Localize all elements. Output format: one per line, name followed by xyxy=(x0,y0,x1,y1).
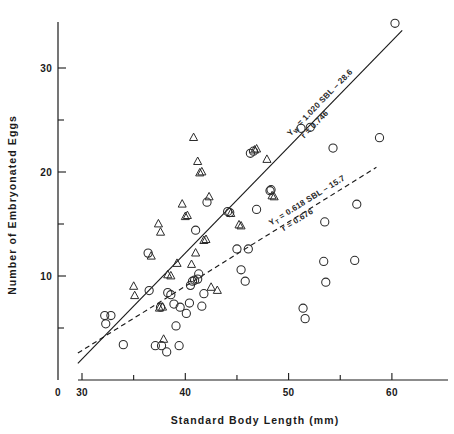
data-point-circle xyxy=(252,205,260,213)
y-tick-label: 20 xyxy=(40,167,52,178)
data-point-triangle xyxy=(183,211,191,218)
data-point-circle xyxy=(322,278,330,286)
data-point-triangle xyxy=(178,200,186,208)
data-point-triangle xyxy=(202,235,210,243)
data-point-triangle xyxy=(194,157,202,165)
data-point-circle xyxy=(102,320,110,328)
data-point-circle xyxy=(391,19,399,27)
y-tick-label: 30 xyxy=(40,63,52,74)
x-tick-label: 50 xyxy=(283,387,295,398)
data-point-triangle xyxy=(154,219,162,227)
data-point-circle xyxy=(144,249,152,257)
regression-equation-text: YW = 1.020 SBL – 28.6 xyxy=(285,67,355,138)
data-point-circle xyxy=(163,348,171,356)
data-point-circle xyxy=(198,302,206,310)
regression-label-t: YT = 0.618 SBL – 15.7r = 0.676 xyxy=(267,173,353,237)
regression-equation-text: YT = 0.618 SBL – 15.7 xyxy=(267,173,347,228)
scatter-plot-figure: 304050600102030Standard Body Length (mm)… xyxy=(0,0,454,434)
data-point-triangle xyxy=(131,291,139,298)
x-tick-label: 60 xyxy=(386,387,398,398)
data-point-circle xyxy=(107,311,115,319)
data-point-circle xyxy=(329,144,337,152)
data-point-circle xyxy=(119,341,127,349)
data-point-circle xyxy=(241,277,249,285)
data-point-triangle xyxy=(235,220,243,228)
y-axis-title: Number of Embryonated Eggs xyxy=(6,115,18,295)
data-point-triangle xyxy=(192,249,200,257)
data-point-triangle xyxy=(130,282,138,290)
data-point-circle xyxy=(237,266,245,274)
data-point-circle xyxy=(353,200,361,208)
data-point-circle xyxy=(375,134,383,142)
regression-label-w: YW = 1.020 SBL – 28.6r = 0.746 xyxy=(285,67,362,146)
x-axis-title: Standard Body Length (mm) xyxy=(171,414,340,426)
data-point-circle xyxy=(200,290,208,298)
data-point-circle xyxy=(301,315,309,323)
data-point-triangle xyxy=(190,133,198,140)
data-point-circle xyxy=(182,309,190,317)
x-tick-label: 30 xyxy=(76,387,88,398)
regression-line-solid xyxy=(78,30,402,363)
data-point-circle xyxy=(195,270,203,278)
data-point-triangle xyxy=(263,155,271,163)
data-point-circle xyxy=(185,299,193,307)
data-point-triangle xyxy=(198,167,206,175)
x-tick-label: 40 xyxy=(179,387,191,398)
data-point-circle xyxy=(321,218,329,226)
data-point-circle xyxy=(175,342,183,350)
x-origin-label: 0 xyxy=(55,387,61,398)
data-point-triangle xyxy=(188,260,196,267)
data-point-circle xyxy=(172,322,180,330)
data-point-circle xyxy=(192,226,200,234)
data-point-circle xyxy=(233,245,241,253)
data-point-circle xyxy=(299,304,307,312)
plot-canvas: 304050600102030Standard Body Length (mm)… xyxy=(0,0,454,434)
y-tick-label: 10 xyxy=(40,271,52,282)
regression-line-dashed xyxy=(78,167,377,353)
data-point-circle xyxy=(351,256,359,264)
data-point-circle xyxy=(320,257,328,265)
data-point-triangle xyxy=(207,283,215,291)
data-point-triangle xyxy=(157,228,165,236)
data-point-circle xyxy=(203,198,211,206)
